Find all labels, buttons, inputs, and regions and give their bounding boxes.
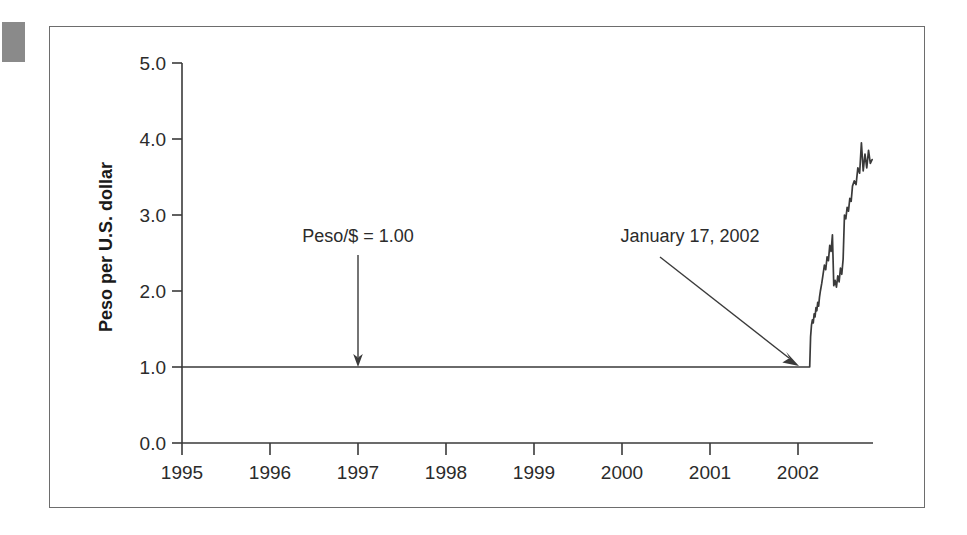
x-tick-label-1996: 1996 [249,462,291,483]
chart-frame: 5.0 4.0 3.0 2.0 1.0 0.0 Peso per U.S. do… [49,26,925,508]
annotation-parity-label: Peso/$ = 1.00 [302,226,414,246]
annotation-parity-arrow [353,255,363,367]
y-tick-label-3: 3.0 [140,205,166,226]
y-tick-label-4: 4.0 [140,129,166,150]
annotation-date-arrow [660,257,799,366]
x-tick-label-2001: 2001 [689,462,731,483]
x-tick-label-1998: 1998 [425,462,467,483]
y-axis-title: Peso per U.S. dollar [96,162,116,332]
annotation-date-label: January 17, 2002 [620,226,759,246]
page-corner-marker [2,22,25,62]
y-tick-label-5: 5.0 [140,53,166,74]
x-tick-label-1997: 1997 [337,462,379,483]
x-tick-label-2000: 2000 [601,462,643,483]
x-axis-ticks [182,443,798,455]
y-tick-label-0: 0.0 [140,433,166,454]
figure-page: 5.0 4.0 3.0 2.0 1.0 0.0 Peso per U.S. do… [0,0,967,535]
x-tick-label-1999: 1999 [513,462,555,483]
data-series-line [182,143,872,367]
x-tick-label-2002: 2002 [777,462,819,483]
y-tick-label-1: 1.0 [140,357,166,378]
x-tick-label-1995: 1995 [161,462,203,483]
y-axis-ticks [172,63,182,443]
line-chart: 5.0 4.0 3.0 2.0 1.0 0.0 Peso per U.S. do… [50,27,924,507]
y-tick-label-2: 2.0 [140,281,166,302]
